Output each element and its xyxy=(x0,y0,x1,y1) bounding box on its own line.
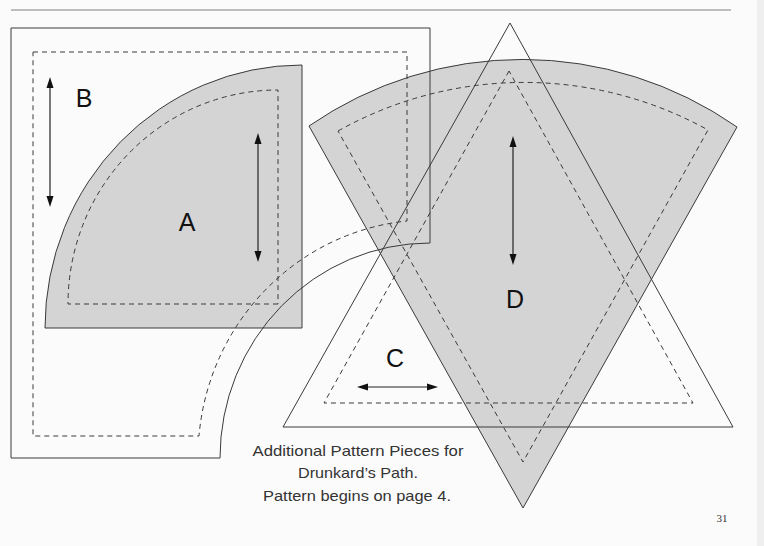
piece-label-b: B xyxy=(76,84,93,112)
caption-line-3: Pattern begins on page 4. xyxy=(263,487,451,504)
caption-line-2: Drunkard’s Path. xyxy=(298,464,418,481)
pattern-sheet: B A C D Additional Pattern Pieces for Dr… xyxy=(0,0,764,546)
pattern-page: B A C D Additional Pattern Pieces for Dr… xyxy=(0,0,764,546)
piece-label-c: C xyxy=(386,344,404,372)
piece-label-a: A xyxy=(179,208,196,236)
piece-label-d: D xyxy=(506,285,524,313)
caption-line-1: Additional Pattern Pieces for xyxy=(253,442,464,459)
page-number: 31 xyxy=(717,512,728,524)
scan-edge xyxy=(757,0,764,546)
